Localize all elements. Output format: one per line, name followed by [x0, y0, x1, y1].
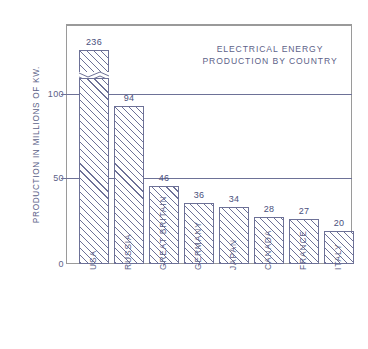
- bar-value-canada: 28: [249, 204, 289, 214]
- y-tick-label-0: 0: [30, 259, 64, 269]
- x-label-japan: JAPAN: [228, 239, 238, 270]
- x-label-great-britain: GREAT BRITAIN: [158, 195, 168, 270]
- x-label-italy: ITALY: [333, 243, 343, 270]
- bar-value-japan: 34: [214, 194, 254, 204]
- bar-value-france: 27: [284, 206, 324, 216]
- x-label-russia: RUSSIA: [123, 233, 133, 270]
- bar-value-russia: 94: [109, 93, 149, 103]
- bar-value-germany: 36: [179, 190, 219, 200]
- bar-value-usa: 236: [74, 37, 114, 47]
- bar-chart: PRODUCTION IN MILLIONS OF KW. 100 50 0 2…: [0, 0, 368, 349]
- y-tick-label-100: 100: [30, 89, 64, 99]
- bar-usa-lower: [79, 78, 109, 264]
- y-axis-title: PRODUCTION IN MILLIONS OF KW.: [32, 35, 41, 255]
- x-label-germany: GERMANY: [193, 221, 203, 270]
- x-label-usa: USA: [88, 250, 98, 270]
- bar-value-italy: 20: [319, 218, 359, 228]
- x-label-france: FRANCE: [298, 230, 308, 270]
- y-tick-label-50: 50: [30, 173, 64, 183]
- chart-title-line-1: ELECTRICAL ENERGY: [190, 43, 350, 55]
- chart-title-line-2: PRODUCTION BY COUNTRY: [190, 55, 350, 67]
- chart-title: ELECTRICAL ENERGY PRODUCTION BY COUNTRY: [190, 43, 350, 67]
- x-label-canada: CANADA: [263, 230, 273, 270]
- bar-value-great-britain: 46: [144, 173, 184, 183]
